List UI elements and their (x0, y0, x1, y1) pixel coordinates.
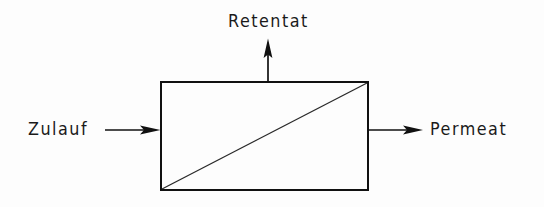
diagram-svg (0, 0, 544, 207)
membrane-diagonal-line (162, 83, 367, 189)
retentate-stream-label: Retentat (228, 13, 309, 30)
feed-stream-label: Zulauf (28, 121, 88, 138)
diagram-canvas: Retentat Zulauf Permeat (0, 0, 544, 207)
permeate-stream-label: Permeat (430, 121, 507, 138)
